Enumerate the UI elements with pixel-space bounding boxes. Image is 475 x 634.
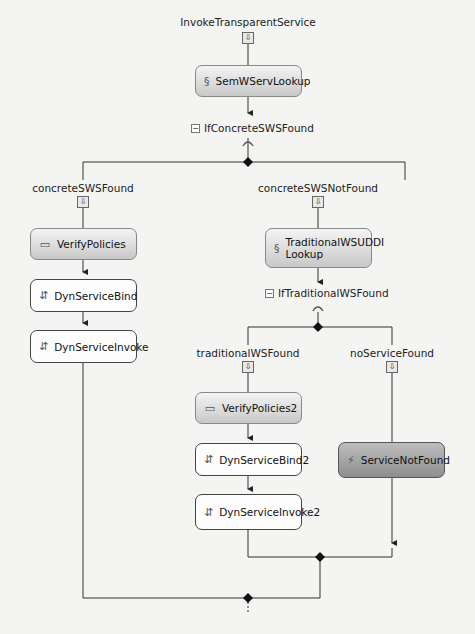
node-servicenotfound[interactable]: ⚡ ServiceNotFound <box>338 442 445 478</box>
join-diamond <box>315 552 325 562</box>
sequence-icon[interactable]: ⇩ <box>242 361 254 373</box>
split-diamond <box>313 322 323 332</box>
node-label: DynServiceBind <box>54 290 137 302</box>
script-icon: § <box>204 75 210 88</box>
node-verifypolicies[interactable]: ▭ VerifyPolicies <box>30 228 137 260</box>
node-semwservlookup[interactable]: § SemWServLookup <box>195 65 302 97</box>
node-label: DynServiceInvoke2 <box>219 506 320 518</box>
condition-if-concrete[interactable]: − IfConcreteSWSFound <box>191 122 314 134</box>
invoke-icon: ⇵ <box>39 289 48 302</box>
join-diamond <box>243 593 253 603</box>
node-label: SemWServLookup <box>216 75 311 87</box>
invoke-icon: ⇵ <box>39 340 48 353</box>
invoke-icon: ⇵ <box>204 506 213 519</box>
node-verifypolicies2[interactable]: ▭ VerifyPolicies2 <box>195 392 302 424</box>
branch-label-no-service: noServiceFound <box>350 347 434 359</box>
node-label: TraditionalWSUDDI Lookup <box>286 236 385 260</box>
sequence-icon[interactable]: ⇩ <box>386 361 398 373</box>
node-dynservicebind2[interactable]: ⇵ DynServiceBind2 <box>195 443 302 476</box>
node-dynserviceinvoke2[interactable]: ⇵ DynServiceInvoke2 <box>195 494 302 530</box>
workflow-canvas: InvokeTransparentService ⇩ § SemWServLoo… <box>0 0 475 634</box>
sequence-icon[interactable]: ⇩ <box>312 196 324 208</box>
condition-if-traditional[interactable]: − IfTraditionalWSFound <box>265 287 389 299</box>
node-dynserviceinvoke[interactable]: ⇵ DynServiceInvoke <box>30 330 137 363</box>
script-icon: § <box>274 242 280 255</box>
node-dynservicebind[interactable]: ⇵ DynServiceBind <box>30 279 137 312</box>
branch-label-concrete-not-found: concreteSWSNotFound <box>258 182 378 194</box>
node-label: ServiceNotFound <box>361 454 450 466</box>
node-label-line2: Lookup <box>286 248 324 260</box>
collapse-toggle[interactable]: − <box>265 289 274 298</box>
condition-label: IfTraditionalWSFound <box>278 287 389 299</box>
invoke-icon: ⇵ <box>204 453 213 466</box>
node-label: DynServiceBind2 <box>219 454 309 466</box>
policy-icon: ▭ <box>204 402 216 415</box>
node-label-line1: TraditionalWSUDDI <box>286 236 385 248</box>
policy-icon: ▭ <box>39 238 51 251</box>
sequence-icon[interactable]: ⇩ <box>77 196 89 208</box>
throw-icon: ⚡ <box>347 454 355 467</box>
node-label: VerifyPolicies <box>57 238 126 250</box>
root-activity-label: InvokeTransparentService <box>180 16 316 28</box>
node-label: VerifyPolicies2 <box>222 402 297 414</box>
collapse-toggle[interactable]: − <box>191 124 200 133</box>
node-label: DynServiceInvoke <box>54 341 148 353</box>
branch-label-concrete-found: concreteSWSFound <box>32 182 134 194</box>
branch-icon <box>313 307 323 311</box>
sequence-icon[interactable]: ⇩ <box>242 32 254 44</box>
node-traditionalwsuddilookup[interactable]: § TraditionalWSUDDI Lookup <box>265 228 372 268</box>
branch-label-traditional-found: traditionalWSFound <box>196 347 299 359</box>
condition-label: IfConcreteSWSFound <box>204 122 314 134</box>
split-diamond <box>243 157 253 167</box>
